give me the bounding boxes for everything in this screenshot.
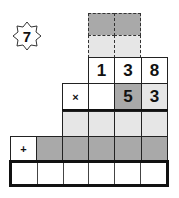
add-operator: +: [10, 136, 37, 162]
problem-number: 7: [12, 21, 42, 51]
partial-product-cell[interactable]: [114, 136, 142, 162]
answer-row: [9, 160, 169, 187]
carry-cell[interactable]: [114, 35, 141, 58]
answer-cell[interactable]: [89, 163, 115, 184]
multiply-operator: ×: [62, 83, 89, 110]
carry-cell[interactable]: [114, 13, 141, 36]
answer-cell[interactable]: [64, 163, 90, 184]
answer-cell[interactable]: [141, 163, 166, 184]
partial-product-cell[interactable]: [62, 136, 89, 162]
multiplier-digit: 3: [141, 83, 168, 110]
answer-cell[interactable]: [115, 163, 141, 184]
carry-cell[interactable]: [88, 13, 115, 36]
partial-product-cell[interactable]: [114, 111, 142, 137]
partial-product-cell[interactable]: [36, 136, 63, 162]
multiplicand-digit: 8: [141, 57, 168, 84]
partial-product-cell[interactable]: [141, 111, 168, 137]
multiplier-digit: 5: [114, 83, 142, 110]
answer-cell[interactable]: [12, 163, 38, 184]
blank-cell: [88, 83, 115, 110]
answer-cell[interactable]: [38, 163, 64, 184]
partial-product-cell[interactable]: [88, 136, 115, 162]
multiplicand-digit: 3: [114, 57, 142, 84]
partial-product-cell[interactable]: [62, 111, 89, 137]
carry-cell[interactable]: [88, 35, 115, 58]
partial-product-cell[interactable]: [88, 111, 115, 137]
partial-product-cell[interactable]: [141, 136, 168, 162]
multiplicand-digit: 1: [88, 57, 115, 84]
